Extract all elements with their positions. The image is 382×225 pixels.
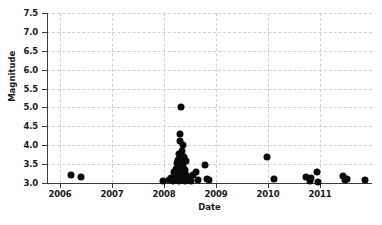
data-point	[201, 162, 208, 169]
data-point	[195, 176, 202, 183]
data-point	[313, 169, 320, 176]
gridline-horizontal	[47, 13, 372, 14]
y-tick-mark	[42, 126, 47, 127]
gridline-vertical	[216, 13, 217, 183]
data-point	[263, 153, 270, 160]
y-tick-label: 6.0	[24, 66, 38, 75]
y-tick-label: 3.0	[24, 179, 38, 188]
gridline-vertical	[112, 13, 113, 183]
y-tick-label: 7.5	[24, 9, 38, 18]
data-point	[178, 104, 185, 111]
gridline-horizontal	[47, 51, 372, 52]
y-tick-mark	[42, 89, 47, 90]
y-axis-spine	[47, 13, 48, 183]
data-point	[193, 168, 200, 175]
gridline-horizontal	[47, 70, 372, 71]
data-point	[177, 130, 184, 137]
gridline-horizontal	[47, 107, 372, 108]
data-point	[183, 158, 190, 165]
y-tick-label: 4.5	[24, 122, 38, 131]
gridline-horizontal	[47, 126, 372, 127]
data-point	[78, 173, 85, 180]
y-tick-label: 7.0	[24, 28, 38, 37]
gridline-vertical	[164, 13, 165, 183]
x-tick-label: 2009	[205, 190, 228, 199]
x-tick-mark	[112, 184, 113, 188]
y-tick-label: 5.0	[24, 103, 38, 112]
y-tick-label: 4.0	[24, 141, 38, 150]
x-tick-label: 2010	[257, 190, 280, 199]
gridline-horizontal	[47, 164, 372, 165]
x-tick-label: 2011	[309, 190, 332, 199]
data-point	[344, 176, 351, 183]
plot-area	[47, 13, 372, 183]
gridline-vertical	[320, 13, 321, 183]
gridline-vertical	[60, 13, 61, 183]
y-tick-mark	[42, 164, 47, 165]
scatter-chart: Magnitude Date 3.03.54.04.55.05.56.06.57…	[0, 0, 382, 225]
y-tick-mark	[42, 183, 47, 184]
y-tick-mark	[42, 32, 47, 33]
y-tick-mark	[42, 107, 47, 108]
y-tick-label: 5.5	[24, 85, 38, 94]
y-tick-label: 3.5	[24, 160, 38, 169]
x-tick-label: 2006	[49, 190, 72, 199]
y-axis-title: Magnitude	[8, 41, 17, 111]
y-tick-mark	[42, 13, 47, 14]
data-point	[180, 142, 187, 149]
gridline-horizontal	[47, 89, 372, 90]
y-tick-mark	[42, 145, 47, 146]
data-point	[68, 172, 75, 179]
y-tick-mark	[42, 51, 47, 52]
x-tick-mark	[216, 184, 217, 188]
x-axis-title: Date	[47, 203, 372, 212]
gridline-horizontal	[47, 145, 372, 146]
x-tick-mark	[268, 184, 269, 188]
data-point	[205, 177, 212, 184]
x-tick-label: 2008	[153, 190, 176, 199]
x-tick-mark	[60, 184, 61, 188]
data-point	[271, 175, 278, 182]
data-point	[361, 177, 368, 184]
data-point	[307, 175, 314, 182]
x-tick-label: 2007	[101, 190, 124, 199]
gridline-horizontal	[47, 32, 372, 33]
data-point	[315, 178, 322, 185]
y-tick-mark	[42, 70, 47, 71]
y-tick-label: 6.5	[24, 47, 38, 56]
x-tick-mark	[164, 184, 165, 188]
